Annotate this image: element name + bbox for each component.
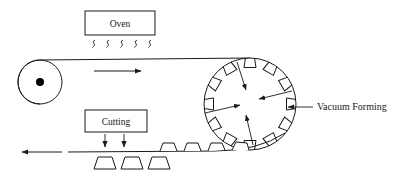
cut-part-trapezoid	[121, 157, 143, 169]
formed-part-trapezoid	[184, 143, 201, 151]
thermoforming-diagram: Oven	[0, 0, 409, 178]
oven-station: Oven	[85, 11, 155, 35]
heat-squiggle-icon	[92, 40, 95, 48]
heat-squiggle-icon	[148, 40, 151, 48]
process-diagram-canvas: Oven	[0, 0, 409, 178]
heat-waves-group	[92, 40, 151, 48]
formed-part-trapezoid	[160, 143, 177, 151]
heat-squiggle-icon	[120, 40, 123, 48]
oven-label: Oven	[110, 19, 131, 29]
vacuum-forming-callout: Vacuum Forming	[288, 101, 387, 112]
cutting-blade-arrows-group	[105, 134, 124, 147]
drum-outline	[204, 58, 296, 150]
belt-bottom-run	[68, 151, 215, 152]
cutting-label: Cutting	[102, 117, 131, 127]
formed-part-trapezoid	[208, 143, 225, 151]
cut-part-trapezoid	[148, 157, 170, 169]
cut-parts-group	[94, 157, 170, 169]
cutting-station: Cutting	[85, 110, 147, 132]
belt-top-run	[40, 58, 250, 60]
roller-hub-dot	[36, 78, 44, 86]
vacuum-forming-label: Vacuum Forming	[317, 101, 387, 112]
vacuum-forming-drum	[204, 58, 296, 150]
heat-squiggle-icon	[134, 40, 137, 48]
formed-parts-group	[160, 142, 249, 151]
cut-part-trapezoid	[94, 157, 116, 169]
heat-squiggle-icon	[106, 40, 109, 48]
